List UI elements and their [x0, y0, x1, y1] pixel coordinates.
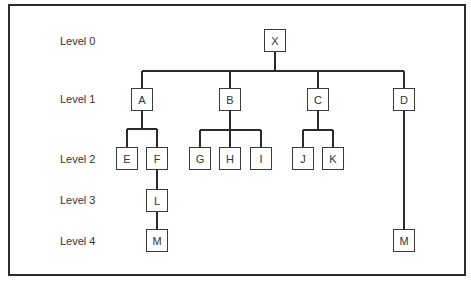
- node-m-under-d: M: [393, 229, 415, 252]
- node-l: L: [146, 189, 168, 212]
- level-0-label: Level 0: [60, 35, 95, 47]
- node-h: H: [219, 147, 241, 170]
- node-m-under-l: M: [146, 229, 168, 252]
- node-b: B: [219, 88, 241, 111]
- node-i: I: [250, 147, 272, 170]
- node-d: D: [393, 88, 415, 111]
- node-j: J: [292, 147, 314, 170]
- node-g: G: [189, 147, 211, 170]
- node-e: E: [116, 147, 138, 170]
- node-f: F: [146, 147, 168, 170]
- node-x: X: [264, 29, 286, 52]
- node-c: C: [307, 88, 329, 111]
- node-k: K: [322, 147, 344, 170]
- level-1-label: Level 1: [60, 93, 95, 105]
- level-2-label: Level 2: [60, 153, 95, 165]
- level-4-label: Level 4: [60, 235, 95, 247]
- node-a: A: [131, 88, 153, 111]
- level-3-label: Level 3: [60, 194, 95, 206]
